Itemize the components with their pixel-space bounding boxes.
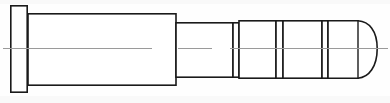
shoulder-3-outline [283,21,322,78]
shoulder-2-outline [239,21,276,78]
groove-1-outline [233,23,239,77]
technical-drawing-canvas [0,0,390,103]
groove-2-outline [276,21,283,78]
main-body-outline [28,14,176,85]
nose-dome-outline [328,21,377,78]
stepped-shaft-drawing [0,0,390,103]
shoulder-1-outline [176,23,233,77]
groove-3-outline [322,21,328,78]
